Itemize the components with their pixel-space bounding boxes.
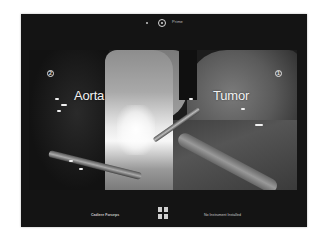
anatomy-label-tumor: Tumor <box>213 88 249 103</box>
left-instrument-label: Cadiere Forceps <box>91 213 119 217</box>
surgical-console-display: Prime Aorta Tumor 2 1 Cadiere Forceps No… <box>21 14 307 227</box>
status-indicator <box>146 22 148 24</box>
specular-highlight <box>57 110 61 112</box>
right-instrument-label: No Instrument Installed <box>204 213 241 217</box>
specular-highlight <box>61 104 67 106</box>
camera-icon <box>158 19 166 27</box>
specular-highlight <box>255 124 263 126</box>
specular-highlight <box>79 168 83 170</box>
anatomy-label-aorta: Aorta <box>74 88 104 103</box>
specular-highlight <box>189 98 193 100</box>
arm-marker-2: 2 <box>47 70 54 77</box>
arm-marker-1: 1 <box>275 70 282 77</box>
scene-aorta-highlight <box>117 105 155 155</box>
grid-cell <box>158 214 162 219</box>
specular-highlight <box>55 98 59 100</box>
grid-cell <box>164 207 168 212</box>
top-status-bar: Prime <box>21 14 307 36</box>
specular-highlight <box>241 108 245 110</box>
camera-mode-label: Prime <box>172 19 183 24</box>
endoscope-video-feed <box>29 50 297 190</box>
grid-icon[interactable] <box>158 207 169 220</box>
scene-shadow-gap <box>179 50 197 100</box>
specular-highlight <box>69 160 73 162</box>
grid-cell <box>164 214 168 219</box>
grid-cell <box>158 207 162 212</box>
